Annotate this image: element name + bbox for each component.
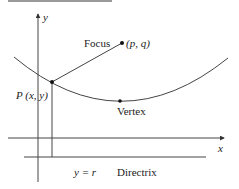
vertex-dot [118,99,122,103]
x-axis-label: x [217,142,223,154]
parabola-diagram: y x Focus (p, q) Vertex P (x, y) y = r D… [0,0,239,189]
directrix-label: Directrix [117,166,157,178]
directrix-equation: y = r [73,166,97,178]
point-p-label: P (x, y) [15,89,48,102]
point-p-dot [50,80,54,84]
y-axis-label: y [42,11,48,23]
focus-coord-label: (p, q) [126,37,150,50]
focus-label: Focus [84,37,110,49]
focus-dot [120,41,124,45]
vertex-label: Vertex [117,105,146,117]
